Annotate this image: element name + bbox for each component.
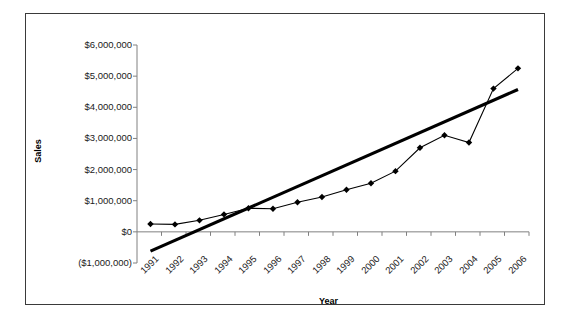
data-point-marker bbox=[441, 132, 447, 138]
data-point-marker bbox=[147, 221, 153, 227]
trendline bbox=[150, 90, 517, 252]
data-point-marker bbox=[319, 194, 325, 200]
sales-data-markers bbox=[147, 65, 521, 227]
data-point-marker bbox=[343, 187, 349, 193]
sales-series-line bbox=[150, 68, 517, 224]
plot-area bbox=[0, 0, 570, 322]
axis-tick-marks bbox=[133, 45, 529, 263]
data-point-marker bbox=[466, 139, 472, 145]
data-point-marker bbox=[294, 199, 300, 205]
data-point-marker bbox=[172, 221, 178, 227]
data-point-marker bbox=[368, 180, 374, 186]
chart-container: Sales Year $6,000,000$5,000,000$4,000,00… bbox=[0, 0, 570, 322]
data-point-marker bbox=[270, 206, 276, 212]
data-point-marker bbox=[196, 217, 202, 223]
